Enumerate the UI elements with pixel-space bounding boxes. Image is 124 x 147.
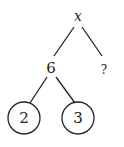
node-label-6: 6: [46, 59, 56, 77]
leaf-label-2: 2: [19, 109, 29, 127]
edge-x-to-unknown: [82, 27, 102, 56]
factor-tree-diagram: x 6 ? 2 3: [0, 0, 124, 147]
leaf-label-3: 3: [73, 109, 83, 127]
edge-6-to-2: [30, 77, 47, 103]
edge-6-to-3: [56, 77, 75, 103]
node-label-unknown: ?: [101, 63, 107, 77]
edge-x-to-6: [54, 27, 74, 56]
root-label: x: [74, 8, 82, 24]
